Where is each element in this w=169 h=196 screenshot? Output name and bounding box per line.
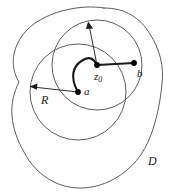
point-b: [131, 60, 137, 66]
domain-boundary-curve: [12, 7, 163, 188]
label-z0-subscript: 0: [98, 75, 102, 84]
label-domain-D: D: [148, 155, 157, 167]
diagram-svg: [0, 0, 169, 196]
point-a: [75, 89, 81, 95]
label-point-b: b: [137, 68, 143, 79]
figure-container: a b R D z0: [0, 0, 169, 196]
radius-arrow-z0-head: [86, 22, 93, 30]
label-point-a: a: [84, 86, 90, 97]
label-radius-R: R: [41, 94, 48, 106]
radius-arrow-a-line: [33, 87, 78, 92]
segment-z0-to-b: [97, 63, 134, 65]
point-z0: [94, 62, 100, 68]
label-point-z0: z0: [94, 71, 102, 84]
